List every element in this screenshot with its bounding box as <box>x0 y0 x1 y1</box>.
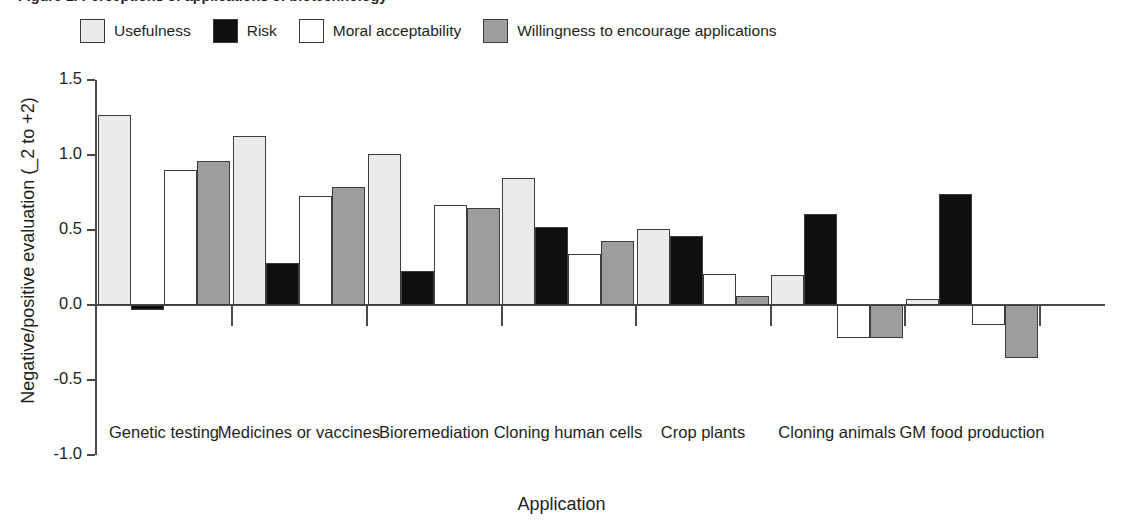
bar <box>98 115 131 306</box>
bar <box>535 227 568 305</box>
bar <box>197 161 230 305</box>
bar <box>601 241 634 306</box>
bar <box>736 296 769 305</box>
x-axis-tick <box>1039 306 1041 326</box>
y-axis-tick <box>87 454 95 456</box>
bar <box>837 305 870 338</box>
plot-area: Negative/positive evaluation (_2 to +2) … <box>0 0 1123 526</box>
figure-container: Figure 1. Perceptions of applications of… <box>0 0 1123 526</box>
bar <box>368 154 401 306</box>
y-axis-label: 0.5 <box>0 219 82 238</box>
bar <box>299 196 332 306</box>
y-axis-tick <box>87 229 95 231</box>
y-axis-tick <box>87 154 95 156</box>
bar <box>467 208 500 306</box>
y-axis-title: Negative/positive evaluation (_2 to +2) <box>18 51 39 451</box>
x-axis-title: Application <box>0 494 1123 515</box>
x-axis-category-label: GM food production <box>887 422 1057 443</box>
bar <box>972 305 1005 325</box>
bar <box>131 305 164 310</box>
bar <box>771 275 804 305</box>
y-axis-line <box>95 80 97 455</box>
bar <box>332 187 365 306</box>
bar-group <box>98 0 230 526</box>
bar-group <box>233 0 365 526</box>
bar-group <box>906 0 1038 526</box>
bar <box>434 205 467 306</box>
bar <box>804 214 837 306</box>
y-axis-tick <box>87 379 95 381</box>
bar-group <box>502 0 634 526</box>
y-axis-label: 1.0 <box>0 144 82 163</box>
bar <box>266 263 299 305</box>
y-axis-tick <box>87 79 95 81</box>
bar <box>1005 305 1038 358</box>
y-axis-tick <box>87 304 95 306</box>
y-axis-label: -0.5 <box>0 369 82 388</box>
bar <box>870 305 903 338</box>
bar-group <box>771 0 903 526</box>
y-axis-label: -1.0 <box>0 444 82 463</box>
bar <box>502 178 535 306</box>
bar <box>670 236 703 305</box>
bar <box>164 170 197 305</box>
y-axis-label: 0.0 <box>0 294 82 313</box>
bar <box>906 299 939 305</box>
y-axis-label: 1.5 <box>0 69 82 88</box>
bar-group <box>368 0 500 526</box>
bar <box>703 274 736 306</box>
bar <box>233 136 266 306</box>
bar <box>568 254 601 305</box>
bar <box>637 229 670 306</box>
bar <box>939 194 972 305</box>
bar <box>401 271 434 306</box>
bar-group <box>637 0 769 526</box>
